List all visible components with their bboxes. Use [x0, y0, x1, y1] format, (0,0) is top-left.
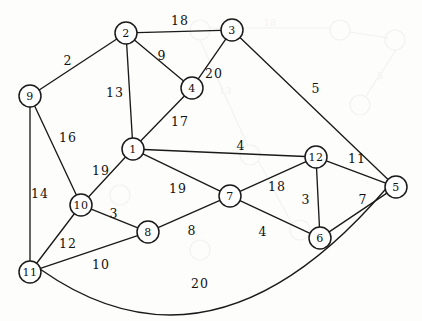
- graph-node-3[interactable]: 3: [221, 19, 243, 41]
- graph-node-12[interactable]: 12: [305, 146, 327, 168]
- graph-edge-7-6: [240, 201, 310, 234]
- edge-weight-2-4: 9: [158, 48, 167, 63]
- svg-text:18: 18: [264, 17, 277, 28]
- edge-weight-10-8: 3: [110, 206, 119, 221]
- graph-diagram: 18 5 13 18292013175161419419312810184311…: [0, 0, 422, 321]
- node-label-8: 8: [144, 226, 152, 239]
- graph-edge-2-3: [137, 30, 221, 32]
- node-label-7: 7: [226, 190, 234, 203]
- graph-node-10[interactable]: 10: [70, 194, 92, 216]
- graph-node-4[interactable]: 4: [181, 77, 203, 99]
- svg-text:13: 13: [219, 85, 232, 96]
- edge-weight-4-1: 17: [171, 114, 189, 129]
- edge-weight-11-8: 10: [92, 257, 110, 272]
- graph-edge-12-6: [317, 168, 320, 227]
- graph-edge-1-12: [144, 149, 305, 156]
- edge-weight-3-5: 5: [312, 81, 321, 96]
- edge-weight-2-1: 13: [106, 85, 124, 100]
- node-label-4: 4: [188, 82, 196, 95]
- edge-weight-7-12: 18: [268, 179, 286, 194]
- node-label-3: 3: [228, 24, 236, 37]
- edge-weight-1-7: 19: [169, 181, 187, 196]
- graph-node-6[interactable]: 6: [309, 227, 331, 249]
- graph-node-8[interactable]: 8: [137, 221, 159, 243]
- graph-edge-9-2: [39, 39, 117, 90]
- node-label-11: 11: [23, 266, 38, 279]
- node-label-6: 6: [316, 232, 324, 245]
- graph-node-9[interactable]: 9: [19, 85, 41, 107]
- edge-weight-2-3: 18: [171, 13, 189, 28]
- graph-edge-2-1: [127, 44, 133, 138]
- edge-weight-1-10: 19: [92, 163, 110, 178]
- graph-node-11[interactable]: 11: [19, 261, 41, 283]
- edge-weight-9-11: 14: [31, 186, 49, 201]
- graph-node-7[interactable]: 7: [219, 185, 241, 207]
- node-label-10: 10: [74, 199, 89, 212]
- node-label-9: 9: [26, 90, 34, 103]
- edge-weight-9-10: 16: [59, 130, 77, 145]
- node-label-2: 2: [122, 27, 130, 40]
- edge-weight-9-2: 2: [64, 53, 73, 68]
- edge-weight-1-12: 4: [237, 138, 246, 153]
- edge-weight-11-5: 20: [191, 276, 209, 291]
- graph-edge-11-8: [40, 236, 137, 269]
- edge-weight-10-11: 12: [59, 236, 77, 251]
- graph-edge-11-5: [41, 189, 386, 314]
- node-label-1: 1: [129, 143, 137, 156]
- graph-node-5[interactable]: 5: [385, 176, 407, 198]
- edge-weight-8-7: 8: [188, 223, 197, 238]
- graph-edge-9-10: [35, 106, 77, 195]
- edge-weight-12-6: 3: [302, 192, 311, 207]
- graph-canvas: 18 5 13 18292013175161419419312810184311…: [0, 0, 422, 321]
- edge-weight-12-5: 11: [348, 151, 366, 166]
- graph-node-1[interactable]: 1: [122, 138, 144, 160]
- svg-text:5: 5: [377, 70, 383, 81]
- edge-weight-3-4: 20: [205, 66, 223, 81]
- node-label-5: 5: [392, 181, 400, 194]
- edge-weight-6-5: 7: [359, 192, 368, 207]
- edge-weight-7-6: 4: [259, 224, 268, 239]
- node-label-12: 12: [309, 151, 324, 164]
- graph-node-2[interactable]: 2: [115, 22, 137, 44]
